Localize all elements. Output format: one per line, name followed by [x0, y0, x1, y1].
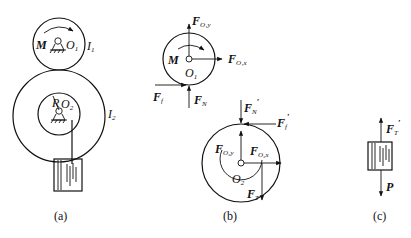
label-FO2y: FO₂y [214, 142, 235, 157]
label-FO2x: FO₂x [249, 144, 270, 159]
panel-b: FO₁y FO₁x M O1 Ff FN FN′ Ff′ FO₂y FO₂x O… [152, 14, 290, 223]
pivot2-b [238, 160, 244, 166]
label-FO1y: FO₁y [191, 14, 212, 29]
hanging-block-a [54, 159, 82, 191]
label-O2-a: O2 [61, 97, 74, 112]
pivot1-support-icon [50, 38, 66, 53]
mechanics-diagram: M O1 I1 R O2 I2 (a) FO₁ [0, 0, 411, 238]
label-P: P [386, 180, 394, 194]
label-FN: FN [193, 93, 207, 108]
pivot1-b [186, 56, 192, 62]
label-I1: I1 [86, 39, 95, 54]
label-Ff: Ff [152, 90, 164, 105]
label-FN-prime: FN′ [243, 97, 260, 116]
label-O1-a: O1 [66, 38, 78, 53]
moment-arc-icon [44, 27, 73, 33]
label-Ff-prime: Ff′ [276, 112, 290, 131]
hanging-block-c [368, 142, 392, 170]
label-moment-b: M [167, 53, 179, 67]
gear2-outer-circle [13, 70, 105, 162]
label-FT-prime: FT′ [385, 118, 401, 137]
panel-a: M O1 I1 R O2 I2 (a) [13, 18, 116, 223]
label-O2-b: O2 [232, 172, 245, 187]
label-moment-a: M [35, 38, 47, 52]
caption-a: (a) [54, 209, 67, 223]
label-FO1x: FO₁x [227, 52, 248, 67]
caption-c: (c) [373, 209, 386, 223]
label-FT: FT [246, 187, 260, 202]
label-R: R [51, 96, 60, 110]
label-I2: I2 [107, 107, 116, 122]
moment-arc-b-icon [178, 45, 204, 50]
caption-b: (b) [223, 209, 237, 223]
panel-c: FT′ P (c) [368, 118, 401, 223]
label-O1-b: O1 [185, 66, 197, 81]
